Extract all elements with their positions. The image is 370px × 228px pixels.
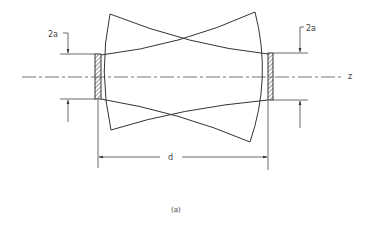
left-aperture-label: 2a	[48, 30, 58, 39]
figure-caption: (a)	[171, 206, 181, 214]
right-aperture-label: 2a	[306, 24, 316, 33]
beam-lower-ray-left-to-right	[101, 99, 250, 142]
resonator-diagram: z 2a 2a d (a)	[0, 0, 370, 228]
left-mirror	[95, 54, 101, 99]
wavefront-left-arc	[104, 14, 111, 130]
separation-label: d	[168, 153, 173, 162]
right-mirror	[268, 53, 273, 100]
right-aperture-arrow-top	[300, 27, 304, 52]
beam-lower-ray-right-to-left	[111, 100, 268, 130]
left-aperture-arrow-top	[63, 33, 68, 53]
beam-upper-ray-right-to-left	[110, 14, 268, 54]
axis-label-z: z	[348, 72, 352, 81]
